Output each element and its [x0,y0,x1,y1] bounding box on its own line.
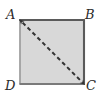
geometry-figure: A B C D [0,0,104,99]
vertex-label-a: A [6,8,15,21]
vertex-label-c: C [86,79,96,92]
vertex-label-d: D [5,79,15,92]
vertex-label-b: B [85,8,95,21]
